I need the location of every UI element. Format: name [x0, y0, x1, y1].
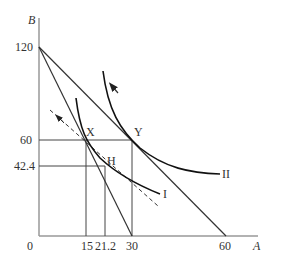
- arrow-outer-icon: [112, 86, 118, 93]
- y-tick-60: 60: [20, 133, 32, 147]
- x-tick-60: 60: [219, 239, 231, 253]
- arrow-dashed-icon: [58, 117, 64, 123]
- origin-label: 0: [27, 239, 33, 253]
- diagram-canvas: B 120 60 42.4 0 15 21.2 30 60 A X Y H I …: [0, 0, 286, 260]
- x-tick-21-2: 21.2: [95, 239, 116, 253]
- point-h-label: H: [107, 154, 116, 168]
- indifference-curve-I: [76, 98, 160, 194]
- indifference-curve-II: [103, 71, 220, 174]
- point-x-label: X: [86, 125, 95, 139]
- curve-I-label: I: [163, 187, 167, 201]
- point-y-label: Y: [134, 125, 143, 139]
- y-axis-label: B: [28, 13, 36, 27]
- indifference-curves: [76, 71, 220, 194]
- x-tick-15: 15: [81, 239, 93, 253]
- x-axis-label: A: [252, 239, 261, 253]
- axes: [39, 18, 258, 236]
- x-tick-30: 30: [126, 239, 138, 253]
- y-tick-120: 120: [15, 40, 33, 54]
- y-tick-42-4: 42.4: [14, 159, 35, 173]
- curve-II-label: II: [222, 167, 230, 181]
- guide-lines: [39, 140, 132, 236]
